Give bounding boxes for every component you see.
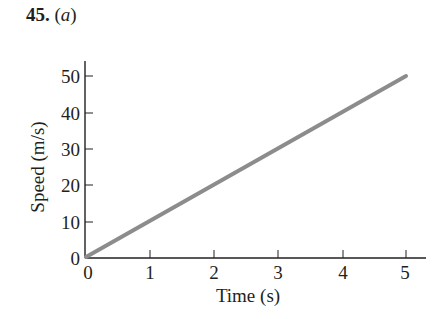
speed-line [86,76,406,257]
svg-text:3: 3 [273,262,283,283]
svg-text:10: 10 [61,212,80,233]
svg-text:4: 4 [338,262,348,283]
svg-text:20: 20 [61,175,80,196]
svg-text:5: 5 [400,262,410,283]
svg-text:0: 0 [71,248,81,269]
x-axis-title: Time (s) [216,285,280,307]
svg-text:2: 2 [209,262,219,283]
speed-time-chart: 0 10 20 30 40 50 0 1 2 3 4 5 Time (s) Sp… [0,0,444,319]
svg-text:0: 0 [83,262,93,283]
x-tick-labels: 0 1 2 3 4 5 [83,262,410,283]
y-axis-title: Speed (m/s) [27,121,49,212]
svg-text:30: 30 [61,139,80,160]
svg-text:1: 1 [145,262,155,283]
y-tick-labels: 0 10 20 30 40 50 [61,66,80,269]
svg-text:40: 40 [61,103,80,124]
svg-text:50: 50 [61,66,80,87]
y-ticks [85,76,93,222]
x-ticks [150,250,406,258]
